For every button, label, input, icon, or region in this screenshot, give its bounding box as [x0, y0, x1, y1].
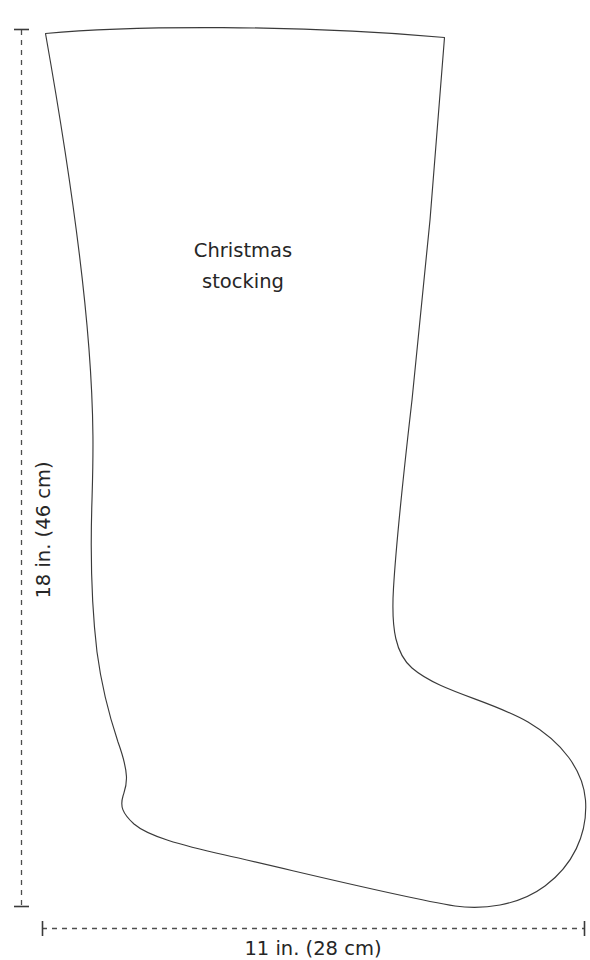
shape-label-line-1: Christmas	[194, 239, 292, 262]
stocking-pattern-svg: 18 in. (46 cm) 11 in. (28 cm) Christmas …	[0, 0, 590, 960]
shape-label-line-2: stocking	[202, 270, 284, 293]
width-dimension-label: 11 in. (28 cm)	[244, 937, 381, 960]
stocking-outline-shape	[46, 28, 586, 908]
pattern-diagram: 18 in. (46 cm) 11 in. (28 cm) Christmas …	[0, 0, 590, 960]
height-dimension-label: 18 in. (46 cm)	[32, 461, 55, 598]
